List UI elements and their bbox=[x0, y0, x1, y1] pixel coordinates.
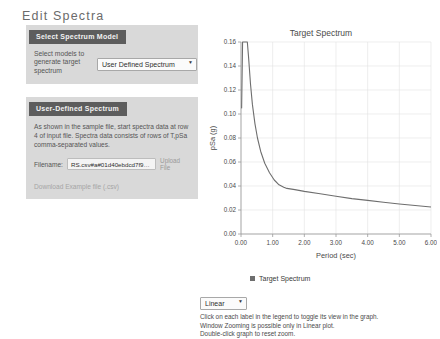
filename-value: RS.csv#a#01d40ebdcd7f9eb02 bbox=[67, 158, 156, 170]
scale-select[interactable]: Linear bbox=[200, 297, 247, 310]
user-defined-spectrum-header: User-Defined Spectrum bbox=[29, 102, 127, 116]
model-select[interactable]: User Defined Spectrum bbox=[97, 58, 197, 71]
upload-file-link[interactable]: Upload File bbox=[160, 157, 190, 171]
legend-label-target-spectrum[interactable]: Target Spectrum bbox=[259, 275, 310, 282]
select-spectrum-model-panel: Select Spectrum Model Select models to g… bbox=[26, 25, 198, 84]
legend-swatch-icon bbox=[250, 276, 255, 281]
svg-text:0.00: 0.00 bbox=[224, 230, 237, 237]
svg-text:0.02: 0.02 bbox=[224, 206, 237, 213]
svg-text:0.10: 0.10 bbox=[224, 110, 237, 117]
svg-text:2.00: 2.00 bbox=[298, 239, 311, 246]
user-defined-spectrum-panel: User-Defined Spectrum As shown in the sa… bbox=[26, 97, 198, 199]
svg-text:0.06: 0.06 bbox=[224, 158, 237, 165]
target-spectrum-chart[interactable]: Target Spectrum 0.001.002.003.004.005.00… bbox=[205, 28, 437, 273]
user-defined-description: As shown in the sample file, start spect… bbox=[34, 122, 190, 150]
model-field-row: Select models to generate target spectru… bbox=[34, 50, 190, 76]
page-title: Edit Spectra bbox=[22, 9, 105, 23]
svg-text:pSa (g): pSa (g) bbox=[208, 126, 217, 150]
user-defined-spectrum-body: As shown in the sample file, start spect… bbox=[26, 116, 198, 172]
bottom-controls: Linear ▼ Click on each label in the lege… bbox=[200, 292, 438, 339]
hint-line: Double-click graph to reset zoom. bbox=[200, 330, 438, 339]
svg-text:0.04: 0.04 bbox=[224, 182, 237, 189]
svg-text:4.00: 4.00 bbox=[362, 239, 375, 246]
svg-text:0.00: 0.00 bbox=[235, 239, 248, 246]
svg-text:5.00: 5.00 bbox=[393, 239, 406, 246]
filename-label: Filename: bbox=[34, 161, 63, 168]
download-example-link[interactable]: Download Example file (.csv) bbox=[34, 183, 198, 190]
svg-text:Period (sec): Period (sec) bbox=[316, 251, 356, 260]
left-column: Select Spectrum Model Select models to g… bbox=[26, 25, 198, 212]
select-spectrum-model-header: Select Spectrum Model bbox=[29, 30, 126, 44]
filename-row: Filename: RS.csv#a#01d40ebdcd7f9eb02 Upl… bbox=[34, 157, 190, 171]
chart-title: Target Spectrum bbox=[205, 28, 437, 38]
chart-svg[interactable]: 0.001.002.003.004.005.006.000.000.020.04… bbox=[205, 28, 437, 273]
svg-text:0.12: 0.12 bbox=[224, 86, 237, 93]
svg-text:1.00: 1.00 bbox=[267, 239, 280, 246]
model-select-wrapper[interactable]: User Defined Spectrum ▼ bbox=[97, 53, 197, 71]
hint-line: Click on each label in the legend to tog… bbox=[200, 313, 438, 322]
chart-legend[interactable]: Target Spectrum bbox=[228, 275, 440, 282]
select-spectrum-model-body: Select models to generate target spectru… bbox=[26, 44, 198, 76]
svg-text:0.08: 0.08 bbox=[224, 134, 237, 141]
model-field-label: Select models to generate target spectru… bbox=[34, 50, 92, 76]
svg-text:3.00: 3.00 bbox=[330, 239, 343, 246]
hints-list: Click on each label in the legend to tog… bbox=[200, 313, 438, 339]
svg-text:0.16: 0.16 bbox=[224, 38, 237, 45]
svg-text:0.14: 0.14 bbox=[224, 62, 237, 69]
scale-select-wrapper[interactable]: Linear ▼ bbox=[200, 292, 247, 310]
hint-line: Window Zooming is possible only in Linea… bbox=[200, 322, 438, 331]
svg-text:6.00: 6.00 bbox=[425, 239, 437, 246]
